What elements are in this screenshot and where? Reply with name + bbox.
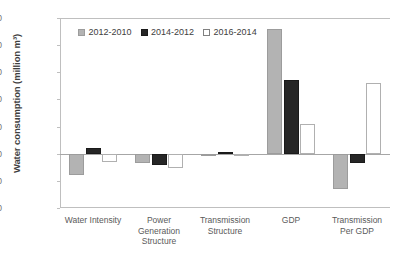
legend-swatch-icon	[203, 29, 210, 36]
bar	[69, 154, 84, 176]
legend-entry[interactable]: 2012-2010	[78, 27, 132, 37]
bar	[284, 80, 299, 153]
bar	[168, 154, 183, 169]
y-tick-label: 500	[0, 122, 2, 132]
bar-group	[324, 18, 390, 208]
legend-swatch-icon	[141, 29, 148, 36]
bar	[300, 124, 315, 154]
bar	[350, 154, 365, 164]
bar-group	[258, 18, 324, 208]
y-tick-label: 2000	[0, 40, 2, 50]
chart-legend: 2012-20102014-20122016-2014	[78, 27, 257, 37]
bar	[218, 152, 233, 154]
x-axis-label: Transmission Per GDP	[316, 215, 398, 236]
bar	[267, 29, 282, 154]
y-tick-label: 1000	[0, 94, 2, 104]
legend-entry[interactable]: 2014-2012	[141, 27, 195, 37]
bar	[366, 83, 381, 154]
bar-group	[60, 18, 126, 208]
legend-entry[interactable]: 2016-2014	[203, 27, 257, 37]
bar	[135, 154, 150, 164]
bar-chart: Water consumption (million m³) 2012-2010…	[0, 0, 416, 273]
bar-group	[192, 18, 258, 208]
y-axis-title: Water consumption (million m³)	[11, 4, 22, 204]
bar	[86, 148, 101, 154]
y-tick-label: 1500	[0, 67, 2, 77]
bar	[333, 154, 348, 189]
y-tick-mark	[57, 208, 60, 209]
legend-label: 2016-2014	[214, 27, 257, 37]
legend-label: 2014-2012	[151, 27, 194, 37]
legend-swatch-icon	[78, 29, 85, 36]
bar	[234, 154, 249, 156]
bar	[102, 154, 117, 163]
bar	[152, 154, 167, 165]
legend-label: 2012-2010	[89, 27, 132, 37]
y-tick-label: -1000	[0, 203, 2, 213]
y-tick-label: -500	[0, 176, 2, 186]
y-tick-label: 0	[0, 149, 2, 159]
bar	[201, 154, 216, 156]
y-tick-label: 2500	[0, 13, 2, 23]
bar-group	[126, 18, 192, 208]
plot-area	[60, 18, 390, 208]
